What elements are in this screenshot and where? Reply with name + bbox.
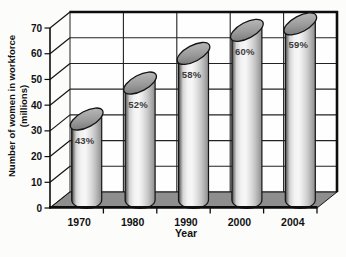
left-wall-diagonal — [50, 63, 70, 79]
women-workforce-chart: Number of women in workforce (millions) … — [0, 0, 346, 257]
left-wall-diagonal — [50, 166, 70, 182]
category-label-2000: 2000 — [217, 216, 261, 229]
bar-1990 — [174, 38, 213, 209]
y-tick-label-20: 20 — [16, 150, 42, 163]
y-tick-label-10: 10 — [16, 176, 42, 189]
bar-1980 — [120, 68, 159, 209]
bar-percent-label-2000: 60% — [225, 46, 265, 57]
bar-percent-label-1970: 43% — [65, 135, 105, 146]
left-wall-diagonal — [50, 115, 70, 131]
bar-2000 — [227, 15, 266, 209]
category-label-1970: 1970 — [57, 216, 101, 229]
y-tick-label-30: 30 — [16, 124, 42, 137]
y-tick-label-60: 60 — [16, 47, 42, 60]
category-label-2004: 2004 — [271, 216, 315, 229]
bar-1970 — [67, 103, 106, 208]
left-wall-diagonal — [50, 38, 70, 54]
category-label-1990: 1990 — [164, 216, 208, 229]
bar-percent-label-1980: 52% — [118, 99, 158, 110]
bar-percent-label-2004: 59% — [278, 39, 318, 50]
y-tick-label-40: 40 — [16, 99, 42, 112]
left-wall-diagonal — [50, 12, 70, 28]
left-wall-diagonal — [50, 89, 70, 105]
y-tick-label-50: 50 — [16, 73, 42, 86]
x-axis-title: Year — [161, 227, 211, 240]
category-label-1980: 1980 — [111, 216, 155, 229]
bar-percent-label-1990: 58% — [172, 69, 212, 80]
y-tick-label-0: 0 — [16, 202, 42, 215]
y-tick-label-70: 70 — [16, 22, 42, 35]
